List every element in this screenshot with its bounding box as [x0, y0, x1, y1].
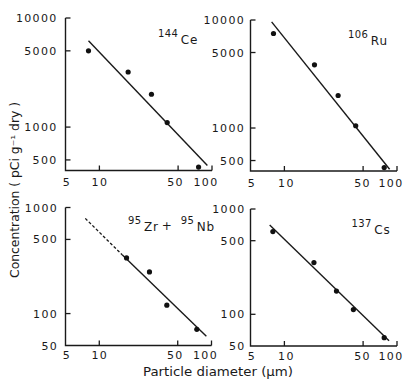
data-point — [164, 303, 169, 308]
element-symbol: Zr — [144, 220, 159, 234]
y-tick-label: 1000 — [24, 121, 57, 134]
data-point — [312, 62, 317, 67]
y-tick-label: 500 — [33, 154, 58, 167]
x-tick-label: 5 — [63, 176, 71, 189]
data-point — [382, 165, 387, 170]
axes-frame — [66, 208, 212, 346]
y-tick-label: 10000 — [16, 12, 58, 25]
element-symbol: Cs — [374, 223, 390, 237]
data-point — [165, 120, 170, 125]
data-point — [270, 229, 275, 234]
y-tick-label: 500 — [33, 233, 58, 246]
y-tick-label: 50 — [41, 340, 58, 353]
y-tick-label: 500 — [221, 235, 246, 248]
y-tick-label: 100 — [221, 308, 246, 321]
isotope-label: 137Cs — [352, 218, 391, 238]
x-tick-label: 100 — [194, 176, 219, 189]
panel-106ru: 500100050001000051050100106Ru — [204, 14, 404, 190]
data-point — [194, 327, 199, 332]
panel-95zr-95nb: 5010050010005105010095Zr+95Nb — [25, 202, 218, 363]
plus-sign: + — [162, 219, 173, 233]
mass-number-superscript: 106 — [348, 29, 368, 40]
data-point — [271, 31, 276, 36]
y-tick-label: 10000 — [204, 14, 246, 27]
panel-137cs: 50100500100051050100137Cs — [212, 203, 403, 363]
y-tick-label: 5000 — [212, 47, 245, 60]
figure: Concentration ( pCi g⁻¹ dry ) Particle d… — [0, 0, 410, 385]
panel-144ce: 500100050001000051050100144Ce — [16, 12, 218, 189]
isotope-label: 106Ru — [348, 29, 388, 49]
x-tick-label: 50 — [167, 176, 184, 189]
x-tick-label: 100 — [379, 350, 404, 363]
y-tick-label: 50 — [229, 340, 246, 353]
regression-line-solid — [270, 225, 389, 341]
data-point — [126, 69, 131, 74]
x-tick-label: 50 — [167, 349, 184, 362]
y-tick-label: 1000 — [25, 202, 58, 215]
data-point — [351, 307, 356, 312]
data-point — [86, 48, 91, 53]
y-axis-label: Concentration ( pCi g⁻¹ dry ) — [8, 102, 22, 278]
data-point — [311, 260, 316, 265]
regression-line-dashed — [85, 218, 122, 254]
x-tick-label: 100 — [379, 177, 404, 190]
mass-number-superscript: 95 — [181, 215, 195, 226]
data-point — [196, 164, 201, 169]
x-tick-label: 5 — [63, 349, 71, 362]
x-tick-label: 5 — [248, 350, 256, 363]
mass-number-superscript: 144 — [158, 28, 178, 39]
x-tick-label: 50 — [354, 350, 371, 363]
data-point — [382, 335, 387, 340]
y-tick-label: 500 — [220, 155, 245, 168]
data-point — [334, 289, 339, 294]
data-point — [147, 269, 152, 274]
x-tick-label: 50 — [354, 177, 371, 190]
isotope-label: 95Zr+95Nb — [128, 215, 215, 235]
regression-line-solid — [88, 41, 207, 166]
x-tick-label: 100 — [193, 349, 218, 362]
y-tick-label: 1000 — [212, 122, 245, 135]
y-tick-label: 1000 — [212, 203, 245, 216]
y-tick-label: 100 — [33, 308, 58, 321]
x-tick-label: 5 — [248, 177, 256, 190]
data-point — [149, 92, 154, 97]
mass-number-superscript: 137 — [352, 218, 372, 229]
isotope-label: 144Ce — [158, 28, 198, 48]
data-point — [336, 93, 341, 98]
x-tick-label: 10 — [92, 176, 109, 189]
mass-number-superscript: 95 — [128, 215, 142, 226]
regression-line-solid — [122, 255, 206, 337]
x-tick-label: 10 — [91, 349, 108, 362]
x-tick-label: 10 — [278, 177, 295, 190]
y-tick-label: 5000 — [24, 45, 57, 58]
x-axis-label: Particle diameter (µm) — [143, 365, 293, 379]
element-symbol: Nb — [197, 220, 215, 234]
data-point — [124, 255, 129, 260]
element-symbol: Ru — [371, 34, 388, 48]
x-tick-label: 10 — [278, 350, 295, 363]
element-symbol: Ce — [181, 33, 198, 47]
data-point — [353, 123, 358, 128]
